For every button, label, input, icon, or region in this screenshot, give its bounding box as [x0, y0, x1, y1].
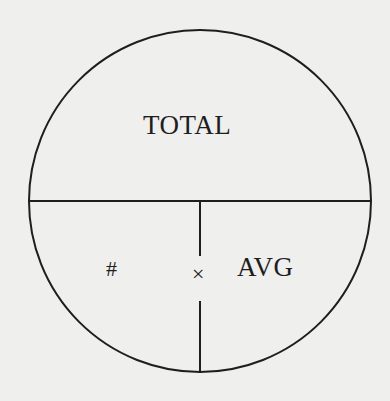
- average-label: AVG: [237, 254, 294, 281]
- formula-circle-diagram: TOTAL # × AVG: [0, 0, 390, 401]
- total-label: TOTAL: [143, 112, 231, 139]
- count-label: #: [106, 258, 117, 280]
- diagram-shapes: [0, 0, 390, 401]
- multiply-operator: ×: [192, 263, 204, 285]
